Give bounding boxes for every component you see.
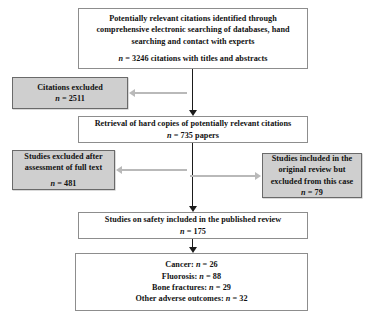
citations-excluded-label: Citations excluded	[37, 82, 103, 93]
studies-excluded-fulltext-line-1: Studies excluded after	[24, 151, 102, 162]
identification-line-1: Potentially relevant citations identifie…	[109, 13, 277, 24]
identification-line-3: searching and contact with experts	[132, 36, 255, 47]
node-outcomes-breakdown: Cancer: n = 26 Fluorosis: n = 88 Bone fr…	[75, 253, 308, 311]
retrieval-count: n = 735 papers	[167, 130, 219, 141]
arrow-stem	[192, 69, 194, 111]
outcome-fluorosis: Fluorosis: n = 88	[162, 271, 221, 282]
original-review-excluded-line-2: original review but	[278, 164, 345, 175]
retrieval-label: Retrieval of hard copies of potentially …	[95, 118, 292, 129]
outcome-other-adverse: Other adverse outcomes: n = 32	[135, 293, 247, 304]
arrow-identification-to-retrieval	[188, 69, 197, 116]
outcome-bone-fractures: Bone fractures: n = 29	[152, 282, 231, 293]
arrow-safety-to-outcomes	[188, 239, 197, 253]
studies-excluded-fulltext-line-2: assessment of full text	[25, 162, 102, 173]
studies-safety-label: Studies on safety included in the publis…	[105, 214, 281, 225]
original-review-excluded-count: n = 79	[301, 187, 323, 198]
outcome-cancer: Cancer: n = 26	[165, 259, 217, 270]
study-selection-flow-diagram: Potentially relevant citations identifie…	[0, 0, 374, 317]
arrow-stem	[190, 175, 256, 177]
original-review-excluded-line-3: excluded from this case	[271, 176, 354, 187]
node-identification: Potentially relevant citations identifie…	[78, 8, 308, 69]
studies-safety-count: n = 175	[180, 226, 206, 237]
arrow-stem	[122, 169, 188, 171]
node-studies-excluded-fulltext: Studies excluded after assessment of ful…	[12, 150, 115, 190]
arrow-to-studies-excluded-fulltext	[116, 166, 187, 174]
studies-excluded-fulltext-count: n = 481	[51, 178, 77, 189]
arrow-head-right-icon	[255, 172, 261, 180]
arrow-stem	[135, 92, 188, 94]
arrow-to-citations-excluded	[129, 89, 187, 97]
original-review-excluded-line-1: Studies included in the	[272, 153, 353, 164]
identification-line-2: comprehensive electronic searching of da…	[96, 24, 289, 35]
arrow-to-original-review-excluded	[190, 172, 261, 180]
citations-excluded-count: n = 2511	[55, 93, 85, 104]
node-studies-on-safety: Studies on safety included in the publis…	[78, 212, 308, 239]
identification-count: n = 3246 citations with titles and abstr…	[118, 53, 267, 64]
node-retrieval: Retrieval of hard copies of potentially …	[78, 116, 308, 143]
node-citations-excluded: Citations excluded n = 2511	[12, 77, 128, 109]
node-original-review-excluded: Studies included in the original review …	[262, 153, 362, 198]
